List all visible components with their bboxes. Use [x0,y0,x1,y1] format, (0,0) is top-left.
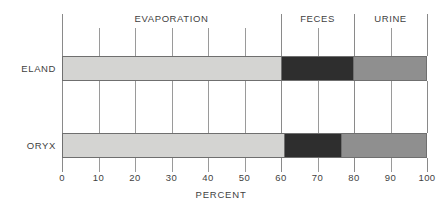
category-divider-line [281,14,282,56]
bar-segment-evaporation [63,57,281,80]
gridline [172,158,173,172]
axis-tick-label: 20 [129,172,140,183]
gridline [208,28,209,56]
gridline [245,81,246,133]
category-divider-line [62,14,63,56]
stacked-bar-chart: ELAND ORYX EVAPORATIONFECESURINE 0102030… [0,0,442,216]
category-divider-line [354,81,355,133]
category-divider-line [354,158,355,172]
category-divider-line [281,158,282,172]
axis-tick-label: 30 [166,172,177,183]
axis-tick-label: 70 [312,172,323,183]
bar-segment-evaporation [63,134,284,157]
gridline [391,81,392,133]
gridline [99,158,100,172]
gridline [135,158,136,172]
axis-tick-label: 60 [275,172,286,183]
category-divider-line [427,14,428,56]
bar-segment-feces [281,57,354,80]
axis-tick-label: 80 [348,172,359,183]
category-label-oryx: ORYX [6,140,56,151]
category-label-eland: ELAND [6,63,56,74]
gridline [391,158,392,172]
bar-oryx [62,133,427,158]
category-divider-line [427,158,428,172]
gridline [99,81,100,133]
segment-header-evaporation: EVAPORATION [135,13,209,24]
bar-segment-urine [353,57,426,80]
category-divider-line [281,81,282,133]
gridline [245,158,246,172]
axis-tick-label: 90 [385,172,396,183]
gridline [318,158,319,172]
category-divider-line [354,14,355,56]
gridline [318,81,319,133]
gridline [172,81,173,133]
plot-area [62,14,427,164]
segment-header-feces: FECES [300,13,335,24]
bar-segment-urine [341,134,426,157]
axis-tick-label: 50 [239,172,250,183]
category-divider-line [62,81,63,133]
gridline [135,28,136,56]
axis-tick-label: 10 [93,172,104,183]
gridline [208,158,209,172]
gridline [208,81,209,133]
gridline [172,28,173,56]
category-divider-line [62,158,63,172]
axis-tick-label: 40 [202,172,213,183]
gridline [99,28,100,56]
axis-title: PERCENT [0,189,442,200]
bar-eland [62,56,427,81]
gridline [135,81,136,133]
gridline [391,28,392,56]
axis-tick-label: 100 [418,172,435,183]
category-divider-line [427,81,428,133]
gridline [318,28,319,56]
gridline [245,28,246,56]
segment-header-urine: URINE [374,13,407,24]
bar-segment-feces [284,134,340,157]
axis-tick-label: 0 [59,172,65,183]
